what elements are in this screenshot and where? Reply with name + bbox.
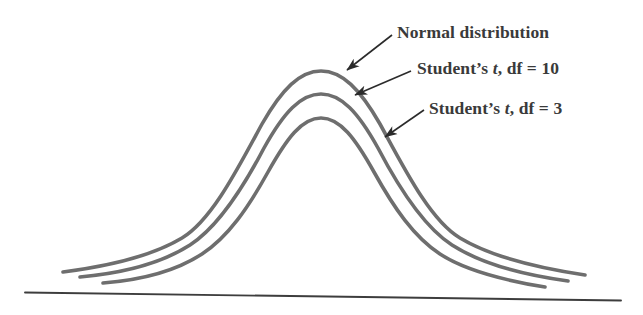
t-distribution-figure: Normal distribution Student’s t, df = 10… (0, 0, 643, 315)
baseline-axis (25, 293, 621, 301)
label-student-t-df-3-prefix: Student’s (429, 98, 505, 118)
curve-student-t-df-3 (103, 118, 545, 287)
label-normal-distribution: Normal distribution (397, 22, 549, 43)
leader-arrow-normal-distribution (347, 35, 392, 70)
label-student-t-df-10: Student’s t, df = 10 (417, 58, 559, 79)
leader-arrow-student-t-df-10 (355, 71, 411, 95)
label-student-t-df-10-prefix: Student’s (417, 58, 493, 78)
label-normal-distribution-text: Normal distribution (397, 22, 549, 42)
label-student-t-df-3: Student’s t, df = 3 (429, 98, 562, 119)
label-student-t-df-10-suffix: , df = 10 (498, 58, 559, 78)
leader-arrow-student-t-df-3 (385, 110, 424, 137)
distribution-plot (0, 0, 643, 315)
label-student-t-df-3-suffix: , df = 3 (510, 98, 563, 118)
